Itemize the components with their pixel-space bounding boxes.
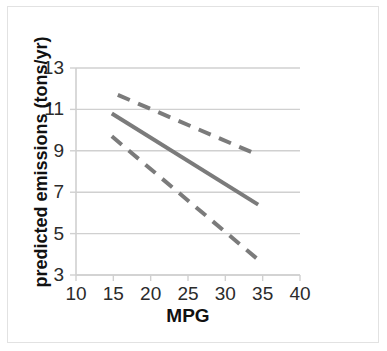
series-line-2 xyxy=(112,136,257,258)
y-axis-title: predicted emissions (tons/yr) xyxy=(31,38,52,288)
gridlines xyxy=(76,68,300,275)
x-tick-label-25: 25 xyxy=(168,284,208,303)
y-tick-marks xyxy=(70,68,76,275)
x-tick-label-40: 40 xyxy=(280,284,320,303)
x-axis-title: MPG xyxy=(76,305,300,327)
series-line-0 xyxy=(112,114,258,205)
chart-figure: 35791113 10152025303540 MPG predicted em… xyxy=(0,0,387,351)
axis-lines xyxy=(76,68,300,275)
x-tick-marks xyxy=(76,275,300,281)
x-tick-label-30: 30 xyxy=(205,284,245,303)
x-tick-label-10: 10 xyxy=(56,284,96,303)
series-line-1 xyxy=(118,95,258,155)
x-tick-label-20: 20 xyxy=(131,284,171,303)
x-tick-label-35: 35 xyxy=(243,284,283,303)
x-tick-label-15: 15 xyxy=(93,284,133,303)
